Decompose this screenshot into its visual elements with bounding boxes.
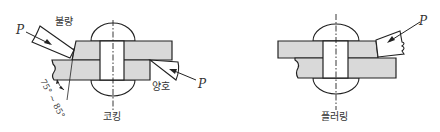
angle-label: 75° ~ 85° [38, 77, 67, 119]
bad-label: 불량 [55, 16, 73, 27]
force-label-bottom: P [197, 77, 207, 91]
angle-arrow-2 [59, 86, 64, 90]
force-arrow [390, 22, 420, 41]
rivet-shank [100, 41, 124, 80]
good-label: 양호 [152, 81, 170, 92]
caption-caulking: 코킹 [103, 111, 121, 122]
caption-fullering: 플러링 [321, 111, 348, 122]
force-label-top: P [15, 23, 25, 37]
force-label: P [418, 14, 428, 28]
diagram-canvas: P 불량 P 양호 75° ~ 85° 코킹 P [0, 0, 440, 132]
fullering-figure: P 플러링 [278, 14, 428, 122]
caulking-figure: P 불량 P 양호 75° ~ 85° 코킹 [15, 16, 207, 122]
rivet-shank [323, 41, 348, 78]
caulking-tool-bad [32, 26, 74, 58]
